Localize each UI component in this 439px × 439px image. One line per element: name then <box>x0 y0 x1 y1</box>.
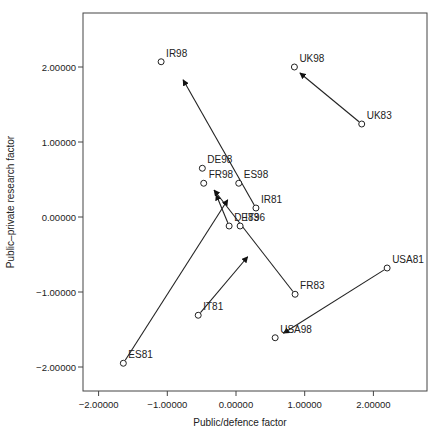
point-marker <box>359 121 365 127</box>
point-label: IR81 <box>261 194 283 205</box>
x-tick-label: −2.00000 <box>79 399 119 410</box>
point-label: FR83 <box>300 280 325 291</box>
y-tick-label: 1.00000 <box>42 137 76 148</box>
point-marker <box>253 205 259 211</box>
x-tick-label: 0.00000 <box>219 399 253 410</box>
point-label: USA98 <box>280 324 312 335</box>
point-label: USA81 <box>392 254 424 265</box>
point-label: ES81 <box>128 349 153 360</box>
x-axis-title: Public/defence factor <box>193 417 287 428</box>
point-label: IR98 <box>166 48 188 59</box>
point-label: FR98 <box>209 169 234 180</box>
point-marker <box>199 165 205 171</box>
point-marker <box>120 360 126 366</box>
y-tick-label: 0.00000 <box>42 212 76 223</box>
x-tick-label: −1.00000 <box>147 399 187 410</box>
point-label: UK98 <box>299 53 324 64</box>
point-label: ES98 <box>244 169 269 180</box>
y-tick-label: −2.00000 <box>36 362 76 373</box>
point-marker <box>195 312 201 318</box>
y-axis-title: Public–private research factor <box>5 135 16 268</box>
point-marker <box>237 223 243 229</box>
scatter-chart: −2.00000−1.000000.000001.000002.000002.0… <box>0 0 439 439</box>
point-marker <box>158 59 164 65</box>
point-marker <box>226 223 232 229</box>
point-marker <box>292 291 298 297</box>
point-marker <box>236 180 242 186</box>
point-marker <box>291 64 297 70</box>
point-marker <box>272 335 278 341</box>
point-label: DE98 <box>207 154 232 165</box>
x-tick-label: 1.00000 <box>288 399 322 410</box>
point-marker <box>384 265 390 271</box>
y-tick-label: −1.00000 <box>36 287 76 298</box>
x-tick-label: 2.00000 <box>356 399 390 410</box>
plot-area <box>83 13 427 391</box>
point-label: IT96 <box>245 212 265 223</box>
point-marker <box>201 180 207 186</box>
y-tick-label: 2.00000 <box>42 62 76 73</box>
point-label: IT81 <box>203 301 223 312</box>
point-label: UK83 <box>367 110 392 121</box>
